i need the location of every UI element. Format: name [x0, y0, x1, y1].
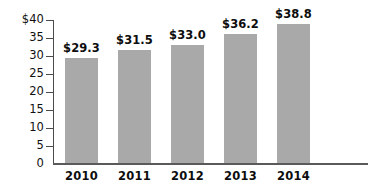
- y-axis-label-10: 10: [29, 122, 44, 134]
- bar-chart: $40 35 30 25 20 15 10 5 0 $29.3 $31.5 $3…: [0, 0, 375, 192]
- x-axis-label-2010: 2010: [55, 170, 108, 182]
- y-axis-label-25: 25: [29, 68, 44, 80]
- bar-2010: [65, 58, 98, 163]
- y-axis-tick-30: [46, 56, 53, 57]
- y-axis-tick-35: [46, 38, 53, 39]
- y-axis-tick-20: [46, 92, 53, 93]
- y-axis-label-15: 15: [29, 104, 44, 116]
- x-axis-label-2014: 2014: [267, 170, 320, 182]
- y-axis-tick-10: [46, 128, 53, 129]
- bar-value-2012: $33.0: [161, 29, 214, 41]
- y-axis-label-0: 0: [37, 158, 44, 170]
- y-axis-label-40: $40: [22, 14, 44, 26]
- bar-2014: [277, 24, 310, 163]
- bar-2013: [224, 34, 257, 163]
- y-axis-label-20: 20: [29, 86, 44, 98]
- bar-value-2011: $31.5: [108, 34, 161, 46]
- bar-2011: [118, 50, 151, 163]
- bar-value-2014: $38.8: [267, 8, 320, 20]
- x-axis-label-2013: 2013: [214, 170, 267, 182]
- x-axis-label-2012: 2012: [161, 170, 214, 182]
- y-axis-tick-15: [46, 110, 53, 111]
- y-axis-label-30: 30: [29, 50, 44, 62]
- bar-value-2010: $29.3: [55, 42, 108, 54]
- x-axis-line: [53, 163, 368, 165]
- bar-value-2013: $36.2: [214, 18, 267, 30]
- bar-2012: [171, 45, 204, 163]
- y-axis-tick-25: [46, 74, 53, 75]
- y-axis-label-35: 35: [29, 32, 44, 44]
- y-axis-label-5: 5: [37, 140, 44, 152]
- y-axis-tick-40: [46, 20, 53, 21]
- x-axis-label-2011: 2011: [108, 170, 161, 182]
- y-axis-tick-5: [46, 146, 53, 147]
